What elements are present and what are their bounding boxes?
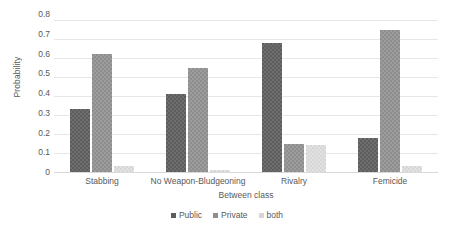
y-tick-label: 0.3 [24, 109, 50, 117]
x-tick-label: Femicide [373, 176, 407, 186]
bars-layer [54, 20, 438, 172]
x-axis-title: Between class [54, 190, 438, 200]
y-tick-label: 0 [24, 168, 50, 176]
legend-swatch-icon [213, 213, 218, 218]
bar[interactable] [70, 109, 90, 172]
x-tick-label: Rivalry [281, 176, 307, 186]
y-tick-label: 0.8 [24, 10, 50, 18]
y-tick-label: 0.5 [24, 69, 50, 77]
y-tick-label: 0.1 [24, 148, 50, 156]
x-tick-label: Stabbing [85, 176, 119, 186]
y-axis-title: Probability [12, 32, 22, 122]
bar[interactable] [284, 144, 304, 173]
y-tick-label: 0.2 [24, 129, 50, 137]
bar[interactable] [262, 43, 282, 172]
bar[interactable] [188, 68, 208, 173]
bar[interactable] [306, 145, 326, 172]
bar[interactable] [92, 54, 112, 172]
plot-area [54, 20, 438, 172]
bar[interactable] [402, 166, 422, 172]
bar[interactable] [114, 166, 134, 172]
legend-item[interactable]: both [259, 211, 284, 220]
bar-group [150, 20, 246, 172]
legend-item[interactable]: Public [171, 211, 202, 220]
legend-item[interactable]: Private [213, 211, 247, 220]
axis-baseline [54, 172, 438, 173]
bar[interactable] [166, 94, 186, 172]
y-axis-tick-labels: 0.8 0.7 0.6 0.5 0.4 0.3 0.2 0.1 0 [24, 14, 50, 172]
x-axis-tick-labels: StabbingNo Weapon-BludgeoningRivalryFemi… [54, 176, 438, 188]
grouped-bar-chart: Probability 0.8 0.7 0.6 0.5 0.4 0.3 0.2 … [0, 0, 454, 233]
y-tick-label: 0.4 [24, 89, 50, 97]
bar[interactable] [358, 138, 378, 172]
legend-swatch-icon [171, 213, 176, 218]
legend-label: Private [221, 211, 247, 220]
legend-swatch-icon [259, 213, 264, 218]
bar-group [54, 20, 150, 172]
bar[interactable] [210, 170, 230, 172]
bar[interactable] [380, 30, 400, 172]
y-tick-label: 0.7 [24, 30, 50, 38]
legend-label: both [267, 211, 284, 220]
bar-group [246, 20, 342, 172]
chart-legend: PublicPrivateboth [0, 211, 454, 220]
bar-group [342, 20, 438, 172]
legend-label: Public [179, 211, 202, 220]
y-tick-label: 0.6 [24, 50, 50, 58]
x-tick-label: No Weapon-Bludgeoning [151, 176, 246, 186]
